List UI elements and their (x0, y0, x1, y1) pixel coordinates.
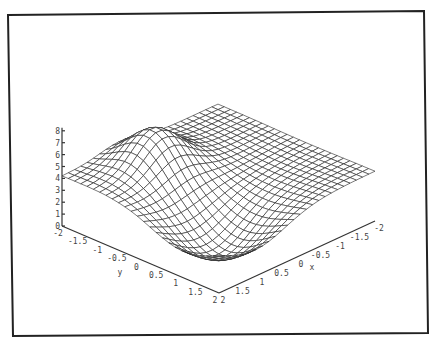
x-tick-label: 2 (221, 296, 226, 305)
y-tick-label: 0 (134, 263, 139, 272)
z-tick-label: 6 (55, 151, 60, 160)
y-tick-label: -2 (53, 229, 63, 238)
y-tick-label: 0.5 (149, 271, 164, 280)
x-tick-label: 1 (260, 278, 265, 287)
z-tick-label: 2 (55, 198, 60, 207)
x-tick-label: 1.5 (235, 287, 250, 296)
z-tick-label: 7 (55, 139, 60, 148)
surface-plot: 012345678-2-1.5-1-0.500.511.52y-2-1.5-1-… (0, 0, 435, 345)
x-tick-label: -2 (374, 224, 384, 233)
z-tick-label: 3 (55, 186, 60, 195)
y-tick-label: 1 (173, 279, 178, 288)
x-tick-label: 0.5 (274, 269, 289, 278)
z-tick-label: 5 (55, 163, 60, 172)
x-tick-label: -1.5 (350, 233, 369, 242)
y-tick-label: -1.5 (68, 237, 87, 246)
z-tick-label: 8 (55, 127, 60, 136)
x-tick-label: 0 (299, 260, 304, 269)
y-tick-label: 2 (213, 296, 218, 305)
z-tick-label: 4 (55, 174, 60, 183)
x-tick-label: -1 (335, 242, 345, 251)
x-tick-label: -0.5 (311, 251, 330, 260)
y-tick-label: 1.5 (188, 288, 203, 297)
y-tick-label: -0.5 (107, 254, 126, 263)
y-tick-label: -1 (92, 246, 102, 255)
wireframe-mesh (62, 104, 375, 261)
z-tick-label: 1 (55, 210, 60, 219)
y-axis-label: y (118, 268, 123, 277)
x-axis-label: x (310, 263, 315, 272)
